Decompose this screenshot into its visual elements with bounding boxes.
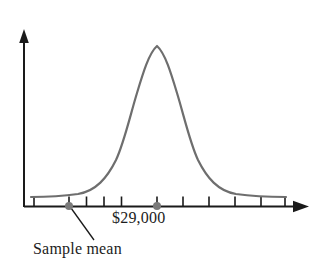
distribution-plot [0, 0, 329, 269]
sample-mean-marker[interactable] [65, 202, 73, 210]
bell-curve-figure: $29,000 Sample mean [0, 0, 329, 269]
mean-value-label: $29,000 [112, 210, 165, 226]
y-axis-arrow-icon [19, 29, 29, 43]
x-axis-arrow-icon [293, 201, 309, 212]
normal-distribution-curve [31, 46, 286, 197]
sample-mean-leader-line [71, 208, 94, 240]
sample-mean-label: Sample mean [33, 241, 122, 257]
